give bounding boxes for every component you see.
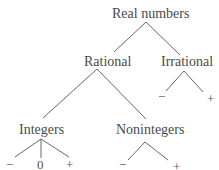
tree-edges: [0, 0, 219, 170]
node-irrational-negative: −: [158, 90, 165, 103]
node-rational: Rational: [84, 55, 131, 69]
edge-nonintegers-pos: [145, 142, 168, 160]
edge-rational-integers: [43, 69, 97, 118]
node-real-numbers: Real numbers: [112, 7, 189, 21]
node-integers: Integers: [19, 123, 64, 137]
edge-irrational-pos: [184, 71, 203, 92]
node-irrational-positive: +: [207, 92, 214, 105]
node-nonintegers-positive: +: [173, 160, 180, 170]
edge-irrational-neg: [166, 71, 184, 91]
node-integers-positive: +: [66, 158, 73, 170]
edge-integers-pos: [41, 139, 69, 157]
node-integers-zero: 0: [37, 158, 44, 170]
edge-real-irrational: [146, 22, 180, 55]
node-integers-negative: −: [6, 158, 13, 170]
node-nonintegers-negative: −: [119, 158, 126, 170]
edge-integers-neg: [15, 139, 41, 157]
edge-nonintegers-neg: [128, 142, 145, 160]
node-irrational: Irrational: [161, 55, 213, 69]
node-nonintegers: Nonintegers: [116, 123, 184, 137]
edge-rational-nonintegers: [97, 69, 146, 119]
edge-real-rational: [114, 22, 146, 52]
